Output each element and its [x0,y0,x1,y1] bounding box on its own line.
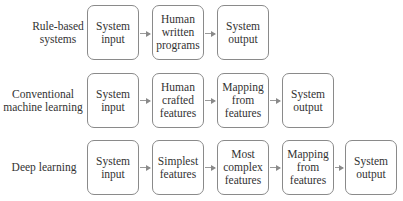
box-deep-system-input: System input [87,140,139,195]
row-label-rule-based: Rule-based systems [30,20,86,46]
box-label: Human crafted features [160,81,196,120]
box-deep-most-complex-features: Most complex features [217,140,269,195]
box-label: Simplest features [158,155,198,181]
box-label: System input [96,20,130,46]
arrow [140,100,150,101]
arrow [205,100,215,101]
row-label-deep-learning: Deep learning [4,161,84,174]
box-conv-system-input: System input [87,73,139,128]
box-rule-system-input: System input [87,5,139,60]
box-label: System output [354,155,388,181]
box-label: System output [226,20,260,46]
box-label: System input [96,88,130,114]
box-label: System output [291,88,325,114]
box-rule-system-output: System output [217,5,269,60]
box-label: Human written programs [156,13,199,52]
box-label: System input [96,155,130,181]
arrow [140,167,150,168]
arrow [205,167,215,168]
box-label: Mapping from features [287,148,329,187]
box-deep-system-output: System output [345,140,397,195]
box-conv-mapping-from-features: Mapping from features [217,73,269,128]
row-label-conventional-ml: Conventional machine learning [0,88,86,114]
box-deep-simplest-features: Simplest features [152,140,204,195]
box-label: Mapping from features [222,81,264,120]
arrow [140,33,150,34]
box-rule-human-written-programs: Human written programs [152,5,204,60]
arrow [335,167,343,168]
arrow [205,33,215,34]
box-label: Most complex features [223,148,263,187]
box-conv-system-output: System output [282,73,334,128]
arrow [270,100,280,101]
box-conv-human-crafted-features: Human crafted features [152,73,204,128]
arrow [270,167,280,168]
box-deep-mapping-from-features: Mapping from features [282,140,334,195]
